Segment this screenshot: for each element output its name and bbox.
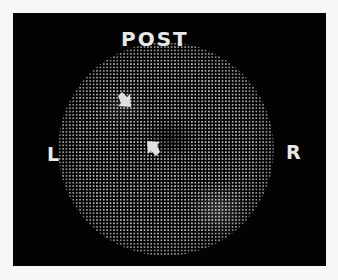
arrow-up-left-icon [146, 140, 162, 156]
scan-panel: POST L R [13, 13, 326, 266]
arrow-down-right-icon [116, 92, 132, 108]
scan-intensity-overlay [58, 42, 274, 256]
orientation-label-right: R [286, 141, 301, 163]
orientation-label-left: L [47, 143, 59, 165]
orientation-label-posterior: POST [121, 27, 189, 51]
